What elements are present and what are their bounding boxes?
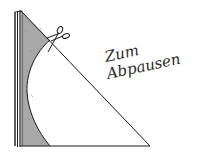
triangle-hypotenuse [21,11,150,146]
folded-paper-diagram: Zum Abpausen [0,0,208,155]
shaded-cut-region [22,12,50,146]
scissors-icon [47,26,70,52]
folded-edge-top [15,11,22,12]
